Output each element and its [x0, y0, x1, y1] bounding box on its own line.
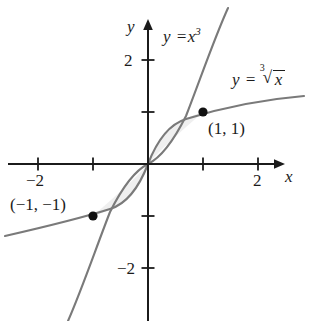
radical-sign-glyph: √ — [263, 69, 272, 86]
y-axis-label: y — [127, 18, 135, 35]
curve-label-cubic-lhs: y = — [163, 27, 188, 46]
radical-symbol: 3√x — [259, 70, 286, 88]
shaded-region-quadrant-i — [148, 112, 203, 164]
curve-label-cbrt-lhs: y = — [232, 70, 257, 89]
graph-figure: y x 2 −2 −2 2 y =x3 y =3√x (1, 1) (−1, −… — [0, 0, 309, 321]
tick-label-y-neg2: −2 — [117, 260, 135, 277]
coordinate-plane — [0, 0, 309, 321]
tick-label-y-2: 2 — [124, 52, 133, 69]
radical-argument: x — [273, 70, 286, 88]
tick-label-x-2: 2 — [253, 172, 262, 189]
shaded-region-quadrant-iii — [93, 164, 148, 216]
x-axis-label: x — [285, 168, 293, 185]
point-label-1-1: (1, 1) — [208, 120, 245, 137]
curve-label-cube-root: y =3√x — [232, 70, 285, 88]
curve-label-cubic-exponent: 3 — [195, 25, 201, 37]
curve-cube-root — [5, 96, 304, 236]
tick-label-x-neg2: −2 — [26, 172, 44, 189]
point-marker-1-1 — [198, 107, 207, 116]
point-marker-neg1-neg1 — [88, 211, 97, 220]
point-label-neg1-neg1: (−1, −1) — [10, 196, 66, 213]
curve-label-cubic: y =x3 — [163, 26, 201, 45]
